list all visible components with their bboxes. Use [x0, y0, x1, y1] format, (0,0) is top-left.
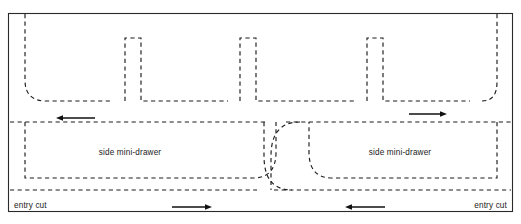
cut-layout-diagram: side mini-drawer side mini-drawer entry … — [0, 0, 521, 224]
label-side-mini-drawer-right: side mini-drawer — [369, 148, 432, 157]
label-entry-cut-right: entry cut — [474, 201, 507, 210]
label-entry-cut-left: entry cut — [14, 201, 47, 210]
diagram-root: side mini-drawer side mini-drawer entry … — [0, 0, 521, 224]
sheet-frame — [9, 14, 513, 212]
label-side-mini-drawer-left: side mini-drawer — [99, 148, 162, 157]
